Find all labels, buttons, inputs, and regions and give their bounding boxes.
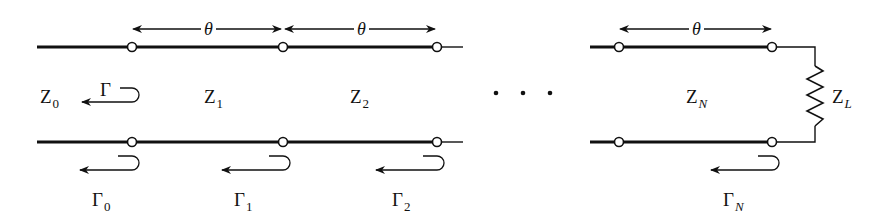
transformer-diagram [0, 0, 893, 222]
reflection-arrows [80, 88, 779, 170]
reflection-label-0: Γ0 [92, 190, 110, 209]
load-impedance-label: ZL [832, 87, 852, 106]
gamma1-arrow [222, 156, 290, 170]
node-bot-3 [433, 138, 442, 147]
node-top-4 [615, 43, 624, 52]
load-resistor-icon [807, 66, 823, 126]
overall-reflection-label: Γ [100, 80, 111, 99]
reflection-label-1: Γ1 [234, 190, 252, 209]
impedance-label-z0: Z0 [40, 87, 59, 106]
gamma0-arrow [80, 156, 139, 170]
ellipsis-dots [494, 91, 553, 96]
reflection-label-N: ΓN [723, 190, 744, 209]
gamma2-arrow [376, 156, 444, 170]
junction-nodes [128, 43, 777, 147]
impedance-label-z2: Z2 [350, 87, 369, 106]
impedance-label-zN: ZN [686, 87, 707, 106]
reflection-label-2: Γ2 [392, 190, 410, 209]
node-bot-4 [615, 138, 624, 147]
node-top-3 [433, 43, 442, 52]
node-top-5 [768, 43, 777, 52]
gammaN-arrow [711, 156, 779, 170]
impedance-label-z1: Z1 [204, 87, 223, 106]
theta-label-1: θ [201, 20, 216, 38]
theta-label-N: θ [689, 20, 704, 38]
node-bot-2 [279, 138, 288, 147]
theta-label-2: θ [354, 20, 369, 38]
node-top-2 [279, 43, 288, 52]
node-bot-1 [128, 138, 137, 147]
node-top-1 [128, 43, 137, 52]
node-bot-5 [768, 138, 777, 147]
